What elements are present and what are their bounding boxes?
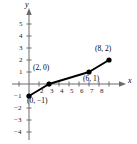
y-tick-label: −3 (14, 117, 21, 124)
y-tick-label: −4 (14, 129, 21, 136)
data-point-marker (106, 57, 111, 62)
x-tick-label: 2 (40, 88, 44, 95)
x-tick-label: 8 (100, 88, 104, 95)
x-tick-label: 3 (50, 88, 54, 95)
y-tick-label: 4 (19, 33, 23, 40)
point-label-2-0: (2, 0) (33, 64, 49, 72)
y-tick-label: 3 (19, 45, 23, 52)
x-axis-name: x (128, 77, 132, 85)
data-point-marker (46, 81, 51, 86)
y-tick-label: 5 (19, 21, 23, 28)
y-tick-label: 1 (19, 69, 23, 76)
point-label-0-neg1: (0, −1) (27, 97, 47, 105)
point-label-6-1: (6, 1) (83, 75, 99, 83)
y-axis-name: y (25, 1, 29, 9)
x-tick-label: 6 (80, 88, 84, 95)
y-tick-label: −2 (14, 105, 21, 112)
x-tick-label: 4 (60, 88, 64, 95)
x-tick-label: 7 (90, 88, 94, 95)
coordinate-plane-figure: 2 3 4 5 6 7 8 5 4 3 2 1 −1 −2 −3 −4 (2, … (0, 0, 137, 144)
y-tick-label: −1 (14, 93, 21, 100)
x-tick-label: 5 (70, 88, 74, 95)
point-label-8-2: (8, 2) (95, 45, 111, 53)
y-tick-label: 2 (19, 57, 23, 64)
